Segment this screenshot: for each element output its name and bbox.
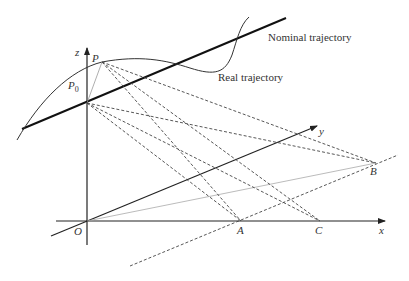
- y-axis: [51, 126, 317, 236]
- nominal-trajectory-label: Nominal trajectory: [268, 31, 352, 43]
- origin-O-label: O: [74, 225, 82, 237]
- diagram-canvas: Nominal trajectory Real trajectory z P P…: [0, 0, 409, 281]
- point-C-label: C: [315, 224, 323, 236]
- point-B-label: B: [370, 165, 377, 177]
- real-trajectory-curve: [17, 17, 249, 140]
- z-axis-label: z: [74, 46, 80, 58]
- point-P0-label: P0: [67, 79, 79, 94]
- real-trajectory-label: Real trajectory: [218, 71, 284, 83]
- line-O-B: [87, 163, 376, 221]
- point-A-label: A: [236, 224, 244, 236]
- trajectory-diagram: Nominal trajectory Real trajectory z P P…: [0, 0, 409, 281]
- x-axis-label: x: [378, 224, 384, 236]
- point-P-label: P: [91, 52, 99, 64]
- y-axis-label: y: [318, 125, 324, 137]
